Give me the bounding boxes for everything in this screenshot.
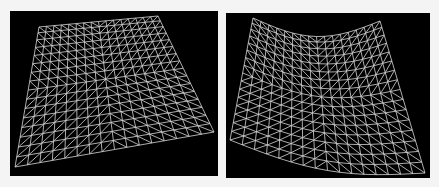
wireframe-meshes [0, 0, 439, 187]
mesh-left [15, 16, 214, 167]
mesh-right [230, 18, 425, 175]
